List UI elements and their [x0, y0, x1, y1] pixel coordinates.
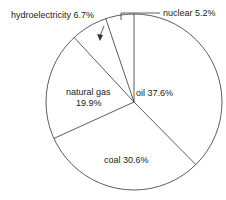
hydro-arrowhead — [97, 34, 103, 41]
coal-label: coal 30.6% — [104, 155, 149, 165]
oil-label: oil 37.6% — [136, 88, 173, 98]
hydro-label: hydroelectricity 6.7% — [11, 10, 94, 20]
hydro-arrow — [100, 26, 104, 36]
nuclear-label: nuclear 5.2% — [163, 8, 216, 18]
pie-chart — [0, 0, 226, 200]
gas-label-name: natural gas — [66, 87, 111, 97]
gas-label-value: 19.9% — [76, 98, 102, 108]
